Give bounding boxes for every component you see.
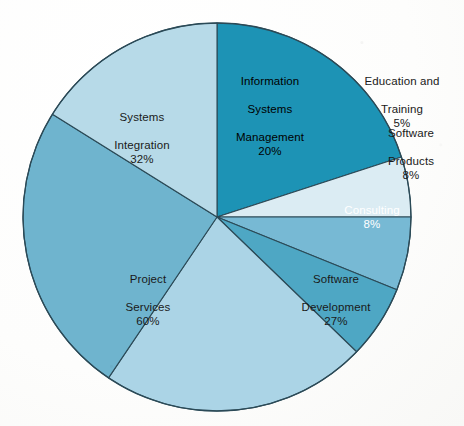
pie-slices-group [23,23,411,411]
pie-chart-svg [0,0,464,426]
pie-chart-page: Information Systems Management 20% Educa… [0,0,464,426]
